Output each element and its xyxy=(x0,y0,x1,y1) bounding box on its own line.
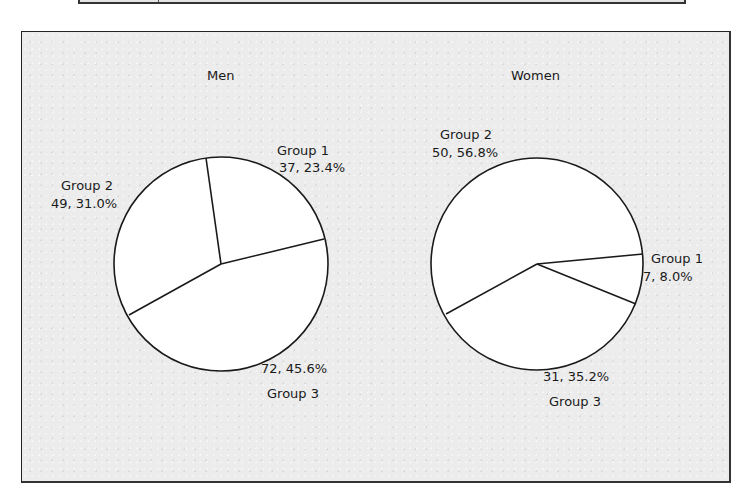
men-group1-name: Group 1 xyxy=(277,143,329,159)
men-group3-name: Group 3 xyxy=(267,386,319,402)
women-group3-value: 31, 35.2% xyxy=(543,369,609,385)
pie-women-title: Women xyxy=(511,68,560,84)
men-group2-value: 49, 31.0% xyxy=(51,196,117,212)
pie-charts xyxy=(0,0,752,503)
women-group1-name: Group 1 xyxy=(651,251,703,267)
men-group3-value: 72, 45.6% xyxy=(261,361,327,377)
pie-women xyxy=(431,158,643,370)
men-group1-value: 37, 23.4% xyxy=(279,160,345,176)
men-group2-name: Group 2 xyxy=(61,178,113,194)
pie-men-title: Men xyxy=(207,68,234,84)
women-group2-value: 50, 56.8% xyxy=(432,145,498,161)
women-group3-name: Group 3 xyxy=(549,394,601,410)
pie-men xyxy=(114,157,328,371)
women-group1-value: 7, 8.0% xyxy=(643,269,693,285)
women-group2-name: Group 2 xyxy=(440,127,492,143)
